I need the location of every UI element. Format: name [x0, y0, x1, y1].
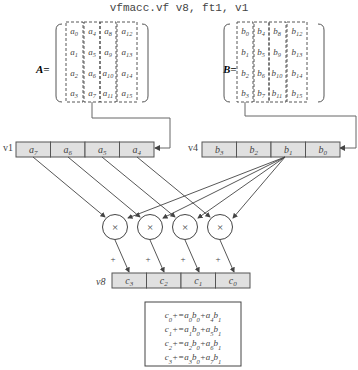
- multiply-icon: ×: [182, 221, 188, 233]
- matrix-a-cell: a0: [70, 26, 79, 37]
- matrix-a-cell: a7: [88, 88, 97, 99]
- register-v8: v8 c3c2c1c0: [96, 273, 250, 288]
- matrix-b-cell: b1: [241, 47, 249, 58]
- matrix-b-cell: b13: [292, 47, 303, 58]
- equations-box: c0+=a0b0+a4b1c1+=a1b0+a5b1c2+=a2b0+a6b1c…: [145, 302, 241, 366]
- plus-sign: +: [180, 254, 185, 264]
- v1-label: v1: [3, 142, 13, 153]
- matrix-b-cell: b15: [292, 88, 303, 99]
- multiply-icon: ×: [147, 221, 153, 233]
- matrix-b-cell: b5: [257, 47, 265, 58]
- matrix-b-cell: b4: [257, 26, 265, 37]
- matrix-a-cell: a10: [103, 68, 115, 79]
- matrix-b-cell: b11: [272, 88, 282, 99]
- plus-sign: +: [145, 254, 150, 264]
- matrix-b-cell: b12: [292, 26, 304, 37]
- matrix-a-cell: a14: [122, 68, 133, 79]
- multiply-icon: ×: [112, 221, 118, 233]
- matrix-b-cell: b6: [257, 68, 266, 79]
- matrix-a-cell: a5: [88, 47, 96, 58]
- matrix-b-cell: b0: [241, 26, 250, 37]
- matrix-a-cell: a6: [88, 68, 97, 79]
- matrix-a-cell: a9: [104, 47, 113, 58]
- matrix-b-cell: b2: [241, 68, 250, 79]
- matrix-b-cell: b10: [272, 68, 284, 79]
- v4-label: v4: [188, 142, 198, 153]
- matrix-a-cell: a1: [70, 47, 78, 58]
- plus-sign: +: [110, 254, 115, 264]
- plus-sign: +: [215, 254, 220, 264]
- matrix-a-cell: a13: [122, 47, 133, 58]
- register-v4: v4 b3b2b1b0: [188, 142, 340, 157]
- matrix-a-cell: a15: [122, 88, 133, 99]
- matrix-a-cell: a12: [122, 26, 134, 37]
- multiply-icon: ×: [217, 221, 223, 233]
- register-v1: v1 a7a6a5a4: [3, 142, 154, 157]
- matrix-b-cell: b3: [241, 88, 249, 99]
- matrix-b-cell: b9: [273, 47, 282, 58]
- matrix-b-cell: b8: [273, 26, 282, 37]
- matrix-b: B= b0b4b8b12b1b5b9b13b2b6b10b14b3b7b11b1…: [222, 22, 324, 102]
- matrix-a-label: A=: [35, 63, 50, 75]
- matrix-a-cell: a2: [70, 68, 79, 79]
- diagram-canvas: A= a0a4a8a12a1a5a9a13a2a6a10a14a3a7a11a1…: [0, 0, 358, 370]
- v8-label: v8: [96, 276, 105, 287]
- matrix-a-cell: a11: [103, 88, 113, 99]
- matrix-a-cell: a4: [88, 26, 96, 37]
- matrix-b-cell: b14: [292, 68, 303, 79]
- matrix-a-cell: a3: [70, 88, 78, 99]
- matrix-a: A= a0a4a8a12a1a5a9a13a2a6a10a14a3a7a11a1…: [35, 22, 148, 102]
- matrix-b-cell: b7: [257, 88, 266, 99]
- matrix-a-cell: a8: [104, 26, 113, 37]
